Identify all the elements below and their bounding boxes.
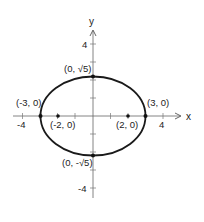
label-vertex-right: (3, 0)	[147, 97, 169, 108]
y-axis-label: y	[89, 16, 94, 27]
label-covertex-bottom: (0, -√5)	[62, 157, 93, 168]
point-vertex-left	[39, 114, 43, 118]
point-focus-left	[56, 114, 60, 118]
label-focus-right: (2, 0)	[116, 119, 138, 130]
y-tick-label-neg4: -4	[78, 183, 86, 194]
x-axis-label: x	[186, 111, 191, 122]
label-vertex-left: (-3, 0)	[16, 97, 41, 108]
ellipse-diagram: x y -4 4 4 -4 (-3, 0) (3, 0) (0, √5) (0,…	[0, 0, 204, 222]
x-tick-label-4: 4	[159, 119, 164, 130]
label-covertex-top: (0, √5)	[64, 63, 91, 74]
x-axis	[13, 113, 181, 119]
y-tick-label-4: 4	[82, 39, 87, 50]
label-focus-left: (-2, 0)	[50, 119, 75, 130]
point-covertex-top	[91, 75, 95, 79]
y-axis	[90, 30, 96, 198]
point-vertex-right	[144, 114, 148, 118]
x-tick-label-neg4: -4	[17, 119, 25, 130]
point-focus-right	[126, 114, 130, 118]
